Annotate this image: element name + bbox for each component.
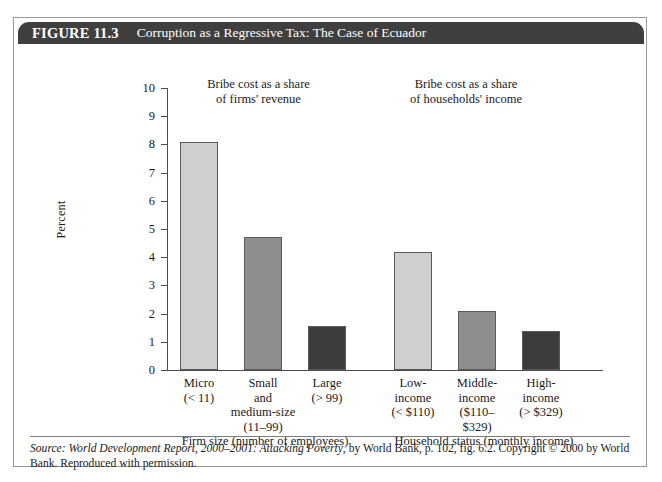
y-axis-tick-label: 7: [127, 168, 155, 178]
chart-plot-area: Bribe cost as a share of firms' revenue …: [14, 44, 646, 439]
y-axis-tick-label: 6: [127, 196, 155, 206]
y-axis-tick-label: 9: [127, 111, 155, 121]
y-axis-tick-label: 0: [127, 365, 155, 375]
source-divider: [30, 436, 630, 437]
y-axis-tick-label: 8: [127, 139, 155, 149]
y-axis-tick-label: 1: [127, 337, 155, 347]
y-axis-tick-label: 4: [127, 252, 155, 262]
x-axis-line: [167, 370, 603, 371]
bar: [180, 142, 218, 370]
y-axis-tick-label: 2: [127, 309, 155, 319]
bar: [244, 237, 282, 370]
y-axis-tick-label: 5: [127, 224, 155, 234]
y-axis-tick: [161, 314, 167, 315]
bar-series: [168, 88, 604, 370]
y-axis-tick-label: 10: [127, 83, 155, 93]
y-axis-tick: [161, 229, 167, 230]
x-axis-category-label: High- income (> $329): [496, 376, 586, 420]
bar: [394, 252, 432, 370]
y-axis-label: Percent: [54, 165, 69, 275]
y-axis-tick: [161, 201, 167, 202]
y-axis-tick: [161, 144, 167, 145]
y-axis-tick-label: 3: [127, 280, 155, 290]
source-label: Source:: [30, 442, 66, 455]
bar: [522, 331, 560, 370]
figure-container: FIGURE 11.3 Corruption as a Regressive T…: [13, 17, 647, 467]
y-axis-tick: [161, 370, 167, 371]
figure-number: FIGURE 11.3: [32, 25, 119, 42]
y-axis-tick: [161, 342, 167, 343]
figure-title: Corruption as a Regressive Tax: The Case…: [137, 25, 426, 41]
y-axis-tick: [161, 285, 167, 286]
y-axis-tick: [161, 173, 167, 174]
y-axis-tick: [161, 116, 167, 117]
y-axis-tick: [161, 88, 167, 89]
source-work-title: World Development Report, 2000–2001: Att…: [69, 442, 343, 455]
x-axis-category-label: Large (> 99): [282, 376, 372, 405]
bar: [458, 311, 496, 370]
figure-title-bar: FIGURE 11.3 Corruption as a Regressive T…: [18, 22, 644, 44]
y-axis-tick: [161, 257, 167, 258]
bar: [308, 326, 346, 370]
source-note: Source: World Development Report, 2000–2…: [30, 442, 634, 471]
